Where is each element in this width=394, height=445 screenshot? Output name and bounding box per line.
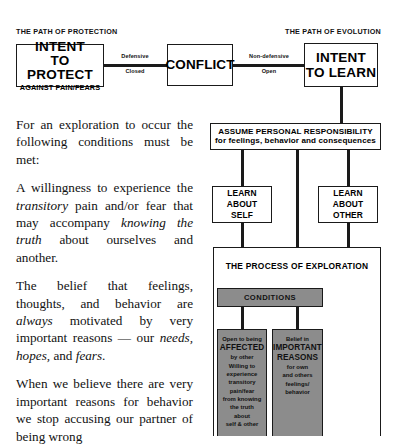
box-learn-about-self-line3: SELF	[231, 210, 253, 221]
box-learn-about-self-line2: ABOUT	[227, 199, 257, 210]
condition-reasons-line5: and others	[282, 371, 312, 379]
condition-affected-line4: Willing to	[229, 362, 255, 370]
condition-affected-line9: the truth	[230, 403, 254, 411]
paragraph-1-text: For an exploration to occur the followin…	[16, 117, 193, 167]
connector-learn-other-to-exploration	[347, 223, 350, 247]
connector-protect-to-conflict	[104, 64, 167, 67]
box-intent-to-learn-line2: TO LEARN	[306, 66, 376, 80]
condition-affected-line5: experience	[227, 370, 258, 378]
connector-learn-self-to-exploration	[241, 223, 244, 247]
box-conditions-label: CONDITIONS	[244, 293, 296, 302]
path-of-evolution-label: THE PATH OF EVOLUTION	[285, 27, 381, 36]
condition-affected-line10: about	[234, 412, 250, 420]
condition-affected-line7: pain/fear	[230, 387, 255, 395]
edge-label-non-defensive: Non-defensive	[239, 53, 299, 59]
box-learn-about-other-line1: LEARN	[333, 188, 362, 199]
box-learn-about-other-line3: OTHER	[333, 210, 363, 221]
box-condition-affected: Open to being AFFECTED by other Willing …	[217, 329, 267, 436]
connector-responsibility-to-exploration	[296, 150, 299, 247]
box-conflict-label: CONFLICT	[165, 58, 234, 72]
paragraph-3-part-c: and	[50, 348, 76, 363]
connector-learn-to-responsibility	[340, 87, 343, 123]
edge-label-closed: Closed	[111, 68, 159, 74]
path-of-protection-label: THE PATH OF PROTECTION	[16, 27, 117, 36]
condition-affected-line1: Open to being	[222, 335, 262, 343]
paragraph-3-part-a: The belief that feelings, thoughts, and …	[16, 278, 193, 310]
condition-reasons-line1: Belief in	[286, 335, 309, 343]
box-conflict: CONFLICT	[167, 44, 233, 86]
box-intent-to-learn: INTENT TO LEARN	[304, 43, 378, 87]
box-intent-to-protect-line3: AGAINST PAIN/FEARS	[20, 84, 100, 91]
paragraph-3-emphasis-always: always	[16, 313, 53, 328]
paragraph-2-part-c: about ourselves and another.	[16, 232, 193, 264]
box-responsibility-line2: for feelings, behavior and consequences	[215, 137, 376, 145]
connector-conditions-to-affected	[241, 307, 244, 329]
condition-affected-line11: self & other	[226, 420, 258, 428]
condition-reasons-line2: IMPORTANT	[273, 343, 322, 353]
condition-reasons-line6: feelings/	[286, 380, 310, 388]
box-condition-important-reasons: Belief in IMPORTANT REASONS for own and …	[272, 329, 323, 436]
paragraph-2-emphasis-transitory: transitory	[16, 198, 68, 213]
connector-conflict-to-learn	[233, 64, 304, 67]
paragraph-4: When we believe there are very important…	[16, 375, 193, 445]
connector-responsibility-to-learn-other	[347, 150, 350, 186]
condition-reasons-line7: behavior	[285, 388, 310, 396]
condition-reasons-line3: REASONS	[277, 353, 318, 363]
paragraph-3-emphasis-fears: fears	[76, 348, 102, 363]
condition-affected-line8: from knowing	[223, 395, 262, 403]
box-responsibility-line1: ASSUME PERSONAL RESPONSIBILITY	[218, 128, 372, 136]
condition-reasons-line4: for own	[287, 363, 308, 371]
box-learn-about-self-line1: LEARN	[227, 188, 256, 199]
box-conditions: CONDITIONS	[217, 288, 323, 307]
paragraph-2-part-a: A willingness to experience the	[16, 180, 193, 195]
box-learn-about-other-line2: ABOUT	[333, 199, 363, 210]
box-learn-about-self: LEARN ABOUT SELF	[212, 186, 272, 223]
condition-affected-line3: by other	[230, 353, 253, 361]
paragraph-4-text: When we believe there are very important…	[16, 376, 193, 443]
condition-affected-line6: transitory	[228, 378, 255, 386]
condition-affected-line2: AFFECTED	[220, 343, 264, 353]
paragraph-3-part-d: .	[102, 348, 105, 363]
connector-responsibility-to-learn-self	[241, 150, 244, 186]
box-learn-about-other: LEARN ABOUT OTHER	[318, 186, 378, 223]
process-of-exploration-title: THE PROCESS OF EXPLORATION	[226, 262, 369, 271]
paragraph-1: For an exploration to occur the followin…	[16, 116, 193, 168]
body-text-column: For an exploration to occur the followin…	[16, 116, 193, 445]
edge-label-defensive: Defensive	[111, 53, 159, 59]
edge-label-open: Open	[239, 68, 299, 74]
box-intent-to-learn-line1: INTENT	[316, 51, 366, 65]
box-assume-personal-responsibility: ASSUME PERSONAL RESPONSIBILITY for feeli…	[210, 123, 381, 150]
paragraph-2: A willingness to experience the transito…	[16, 179, 193, 266]
box-intent-to-protect: INTENT TO PROTECT AGAINST PAIN/FEARS	[16, 44, 104, 87]
box-intent-to-protect-line2: TO PROTECT	[17, 54, 103, 82]
paragraph-3: The belief that feelings, thoughts, and …	[16, 277, 193, 364]
connector-conditions-to-reasons	[296, 307, 299, 329]
box-intent-to-protect-line1: INTENT	[35, 40, 85, 54]
